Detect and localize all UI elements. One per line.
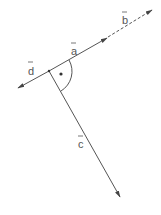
vector-b-label: b: [122, 14, 128, 26]
right-angle-dot: [59, 72, 62, 75]
vector-c: c: [49, 71, 120, 197]
vector-c-label: c: [78, 138, 84, 150]
vector-a: a: [49, 38, 107, 71]
vector-b: b: [108, 10, 152, 37]
vector-diagram: d a b c: [0, 0, 161, 215]
vector-a-label: a: [71, 45, 78, 57]
vertex-point: [48, 70, 50, 72]
right-angle-marker: [59, 60, 72, 91]
vector-d-label: d: [28, 65, 34, 77]
vector-d: d: [18, 62, 49, 88]
